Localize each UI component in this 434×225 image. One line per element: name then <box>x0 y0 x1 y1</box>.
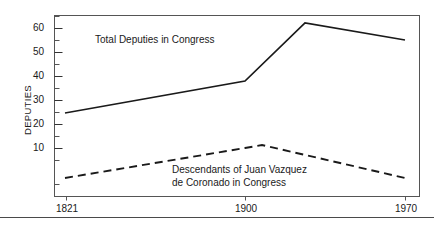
chart-figure: DEPUTIES 60 50 40 30 20 10 1821 1900 197… <box>0 0 434 225</box>
y-tick-label-30: 30 <box>24 94 44 105</box>
annotation-descendants: Descendants of Juan Vazquez de Coronado … <box>172 163 307 189</box>
x-tick-label-1821: 1821 <box>46 203 88 214</box>
x-tick-label-1900: 1900 <box>225 203 267 214</box>
bottom-divider <box>0 217 434 218</box>
x-axis-ticks <box>67 197 406 201</box>
y-tick-label-10: 10 <box>24 142 44 153</box>
x-tick-label-1970: 1970 <box>385 203 427 214</box>
annotation-total-deputies: Total Deputies in Congress <box>95 33 215 46</box>
y-tick-label-60: 60 <box>24 22 44 33</box>
y-tick-label-20: 20 <box>24 118 44 129</box>
annotation-descendants-line-1: Descendants of Juan Vazquez <box>172 163 307 176</box>
y-tick-label-40: 40 <box>24 70 44 81</box>
annotation-descendants-line-2: de Coronado in Congress <box>172 176 307 189</box>
y-tick-label-50: 50 <box>24 46 44 57</box>
line-chart-canvas <box>0 0 434 225</box>
